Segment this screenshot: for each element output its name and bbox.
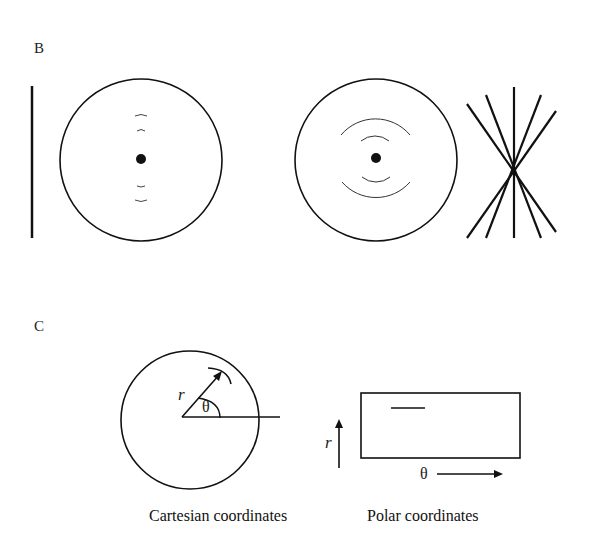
left-center-dot bbox=[136, 154, 146, 164]
panel-b-right-figure bbox=[295, 79, 556, 241]
cartesian-circle bbox=[121, 351, 259, 489]
arc-top-outer bbox=[341, 119, 410, 135]
right-center-dot bbox=[371, 153, 381, 163]
polar-theta-label: θ bbox=[420, 465, 428, 483]
polar-r-label: r bbox=[325, 433, 332, 453]
crossing-lines bbox=[467, 87, 556, 238]
arc-bottom-outer bbox=[135, 200, 147, 202]
arc-top-inner bbox=[361, 136, 389, 141]
theta-arrowhead bbox=[494, 470, 503, 478]
panel-b-left-figure bbox=[32, 79, 222, 241]
arc-bottom-inner bbox=[137, 186, 145, 187]
cartesian-caption: Cartesian coordinates bbox=[149, 507, 287, 525]
diagram-canvas bbox=[0, 0, 596, 546]
arc-bottom-outer bbox=[342, 182, 410, 198]
radius-line bbox=[182, 375, 219, 417]
polar-rectangle bbox=[361, 393, 520, 458]
arc-top-inner bbox=[137, 130, 145, 132]
r-arrowhead bbox=[335, 419, 343, 428]
cartesian-r-label: r bbox=[178, 385, 185, 405]
cartesian-theta-label: θ bbox=[202, 398, 210, 416]
arc-top-outer bbox=[135, 115, 147, 117]
arc-bottom-inner bbox=[362, 177, 390, 182]
panel-c-cartesian bbox=[121, 351, 280, 489]
polar-caption: Polar coordinates bbox=[367, 507, 479, 525]
